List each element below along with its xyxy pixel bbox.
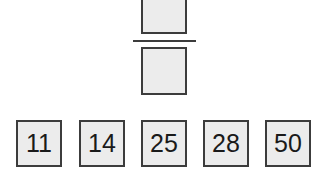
number-card-11[interactable]: 11	[16, 120, 62, 167]
fraction-bar	[133, 40, 196, 42]
number-card-28[interactable]: 28	[203, 120, 249, 167]
numerator-drop-slot[interactable]	[141, 0, 187, 34]
number-card-25[interactable]: 25	[141, 120, 187, 167]
denominator-drop-slot[interactable]	[141, 47, 187, 95]
number-card-14[interactable]: 14	[79, 120, 125, 167]
number-card-50[interactable]: 50	[265, 120, 311, 167]
